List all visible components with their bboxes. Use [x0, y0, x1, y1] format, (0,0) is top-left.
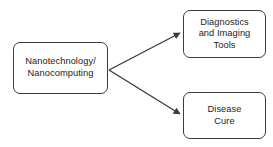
- node-diagnostics-and-imaging-tools[interactable]: Diagnostics and Imaging Tools: [183, 10, 266, 58]
- node-disease-cure[interactable]: Disease Cure: [183, 92, 266, 139]
- node-label-disease-cure: Disease Cure: [208, 104, 242, 127]
- diagram-canvas: Nanotechnology/ Nanocomputing Diagnostic…: [0, 0, 273, 147]
- edge-source-to-disease-cure: [109, 70, 180, 114]
- edge-source-to-diagnostics: [109, 33, 180, 70]
- node-label-diagnostics: Diagnostics and Imaging Tools: [199, 17, 251, 52]
- node-label-source: Nanotechnology/ Nanocomputing: [25, 56, 96, 79]
- node-nanotechnology-nanocomputing[interactable]: Nanotechnology/ Nanocomputing: [13, 42, 108, 94]
